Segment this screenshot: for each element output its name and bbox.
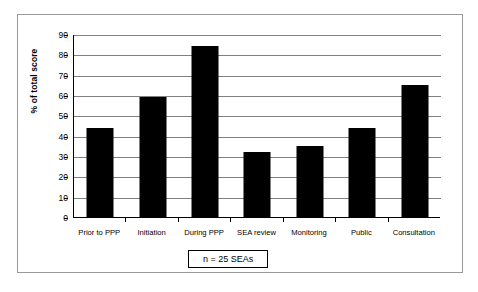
y-tick-label: 10 <box>42 193 68 202</box>
x-tick-label: Public <box>335 228 387 237</box>
y-tick-label: 70 <box>42 71 68 80</box>
x-axis-tick-marks <box>73 218 440 223</box>
bar-slot <box>231 34 283 217</box>
sample-size-annotation: n = 25 SEAs <box>188 250 268 268</box>
y-tick-label: 20 <box>42 173 68 182</box>
x-tick-mark <box>283 218 284 222</box>
bar <box>349 128 376 217</box>
x-tick-label: SEA review <box>230 228 282 237</box>
chart-figure: % of total score 9080706050403020100 Pri… <box>0 0 478 292</box>
y-tick-label: 80 <box>42 51 68 60</box>
bar <box>87 128 114 217</box>
y-tick-label: 90 <box>42 31 68 40</box>
x-tick-mark <box>388 218 389 222</box>
bar <box>296 146 323 217</box>
bar-slot <box>389 34 441 217</box>
y-tick-label: 50 <box>42 112 68 121</box>
y-axis-tick-labels: 9080706050403020100 <box>38 35 68 218</box>
x-tick-label: Initiation <box>125 228 177 237</box>
x-tick-mark <box>178 218 179 222</box>
x-tick-mark <box>125 218 126 222</box>
x-tick-label: During PPP <box>178 228 230 237</box>
bar <box>401 85 428 217</box>
plot-area <box>73 35 440 218</box>
bar-slot <box>179 34 231 217</box>
x-tick-label: Monitoring <box>283 228 335 237</box>
x-tick-mark <box>230 218 231 222</box>
y-tick-label: 30 <box>42 153 68 162</box>
x-tick-label: Consultation <box>388 228 440 237</box>
bar <box>244 152 271 217</box>
bar-slot <box>74 34 126 217</box>
bar-slot <box>336 34 388 217</box>
bar <box>139 97 166 217</box>
bar-slot <box>284 34 336 217</box>
x-tick-label: Prior to PPP <box>73 228 125 237</box>
bar-slot <box>126 34 178 217</box>
bar <box>192 46 219 217</box>
y-tick-label: 60 <box>42 92 68 101</box>
x-axis-tick-labels: Prior to PPPInitiationDuring PPPSEA revi… <box>73 228 440 242</box>
x-tick-mark <box>335 218 336 222</box>
y-tick-label: 0 <box>42 214 68 223</box>
y-tick-label: 40 <box>42 132 68 141</box>
